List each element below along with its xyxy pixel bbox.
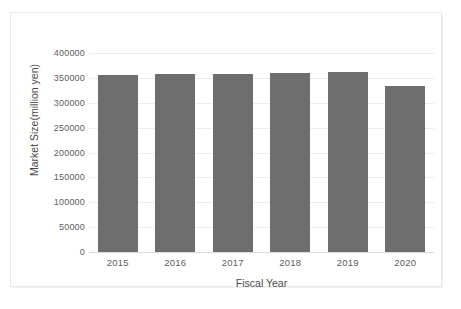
bar-series bbox=[89, 53, 434, 252]
y-axis-tick-label: 300000 bbox=[54, 98, 85, 108]
y-axis-tick-label: 350000 bbox=[54, 73, 85, 83]
y-axis-tick-labels: 0500001000001500002000002500003000003500… bbox=[37, 53, 85, 252]
bar-2020 bbox=[385, 86, 425, 252]
x-axis-tick-label: 2020 bbox=[385, 257, 425, 268]
gridline bbox=[89, 252, 434, 253]
y-axis-tick-label: 0 bbox=[80, 247, 85, 257]
y-axis-tick-label: 150000 bbox=[54, 172, 85, 182]
x-axis-tick-label: 2019 bbox=[328, 257, 368, 268]
x-axis-tick-labels: 201520162017201820192020 bbox=[89, 257, 434, 268]
x-axis-title: Fiscal Year bbox=[89, 277, 434, 289]
y-axis-tick-label: 50000 bbox=[59, 222, 85, 232]
bar-2019 bbox=[328, 72, 368, 252]
y-axis-tick-label: 400000 bbox=[54, 48, 85, 58]
x-axis-tick-label: 2016 bbox=[155, 257, 195, 268]
chart-figure-frame: Market Size(million yen) 050000100000150… bbox=[10, 12, 442, 287]
y-axis-tick-label: 250000 bbox=[54, 123, 85, 133]
x-axis-tick-label: 2018 bbox=[270, 257, 310, 268]
y-axis-tick-label: 100000 bbox=[54, 197, 85, 207]
y-axis-tick-label: 200000 bbox=[54, 148, 85, 158]
plot-area bbox=[89, 53, 434, 252]
x-axis-tick-label: 2017 bbox=[213, 257, 253, 268]
bar-2016 bbox=[155, 74, 195, 252]
chart-page: Market Size(million yen) 050000100000150… bbox=[0, 0, 461, 309]
x-axis-tick-label: 2015 bbox=[98, 257, 138, 268]
bar-2015 bbox=[98, 75, 138, 252]
bar-2017 bbox=[213, 74, 253, 252]
bar-2018 bbox=[270, 73, 310, 252]
